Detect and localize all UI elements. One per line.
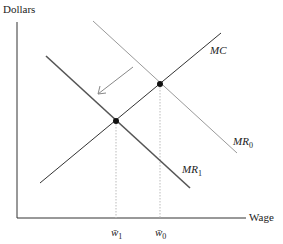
mc-label: MC [210, 44, 227, 56]
mr1-label: MR1 [182, 163, 202, 178]
mr0-label: MR0 [233, 135, 253, 150]
w1-tick-label: w̄1 [111, 226, 122, 241]
shift-arrow-icon [98, 67, 133, 94]
mr0-curve [93, 21, 237, 153]
equilibrium-point-w1 [113, 118, 119, 124]
w0-tick-label: w̄0 [155, 226, 166, 241]
y-axis-label: Dollars [3, 3, 35, 15]
economic-diagram [0, 0, 283, 244]
equilibrium-point-w0 [157, 81, 163, 87]
x-axis-label: Wage [249, 211, 274, 223]
